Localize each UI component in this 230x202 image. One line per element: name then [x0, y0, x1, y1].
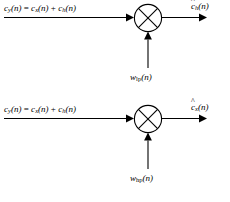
carrier-signal-argument: (n) — [141, 72, 152, 82]
mixer-diagram-lowpass: cy(n) = cx(n) + ch(n) ch(n) wlp(n) — [0, 0, 230, 101]
input-arrowhead-icon — [126, 115, 134, 123]
output-arrowhead-icon — [199, 115, 207, 123]
input-term1-argument: (n) — [38, 3, 49, 13]
output-signal-symbol: c — [191, 103, 195, 112]
mixer-diagram-highpass-graphics — [0, 101, 230, 202]
input-signal-label: cy(n) = cx(n) + ch(n) — [4, 4, 76, 14]
input-term2-argument: (n) — [65, 104, 76, 114]
carrier-arrowhead-icon — [144, 32, 152, 40]
carrier-signal-label: whp(n) — [130, 174, 153, 184]
output-signal-label: cx(n) — [191, 103, 208, 113]
carrier-signal-label: wlp(n) — [130, 73, 152, 83]
mixer-diagram-highpass: cy(n) = cx(n) + ch(n) cx(n) whp(n) — [0, 101, 230, 202]
input-signal-argument: (n) — [11, 104, 22, 114]
carrier-arrowhead-icon — [144, 133, 152, 141]
input-arrowhead-icon — [126, 14, 134, 22]
output-arrowhead-icon — [199, 14, 207, 22]
output-signal-label: ch(n) — [191, 2, 209, 12]
input-signal-label: cy(n) = cx(n) + ch(n) — [4, 105, 76, 115]
input-term2-argument: (n) — [65, 3, 76, 13]
mixer-diagram-lowpass-graphics — [0, 0, 230, 101]
output-signal-argument: (n) — [198, 102, 209, 112]
input-term1-argument: (n) — [38, 104, 49, 114]
input-equals-sign: = — [24, 104, 29, 114]
input-equals-sign: = — [24, 3, 29, 13]
output-signal-argument: (n) — [198, 1, 209, 11]
carrier-signal-argument: (n) — [143, 173, 154, 183]
output-signal-symbol: c — [191, 2, 195, 11]
input-plus-sign: + — [51, 3, 56, 13]
input-signal-argument: (n) — [11, 3, 22, 13]
input-plus-sign: + — [51, 104, 56, 114]
